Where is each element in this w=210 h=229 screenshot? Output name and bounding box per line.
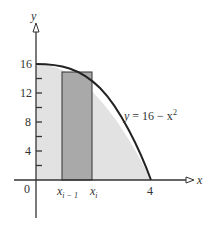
y-tick-label-16: 16 (20, 57, 32, 71)
y-axis-arrow-icon (33, 23, 39, 32)
x-tick-label-4: 4 (147, 184, 153, 198)
y-tick-label-12: 12 (20, 86, 32, 100)
function-label: y = 16 − x2 (123, 108, 177, 123)
y-axis-label: y (30, 9, 37, 23)
x-i-minus-1-label: xi − 1 (56, 184, 78, 200)
x-i-label: xi (89, 184, 98, 200)
x-axis-arrow-icon (186, 177, 194, 183)
y-tick-label-4: 4 (25, 144, 31, 158)
y-tick-label-8: 8 (25, 115, 31, 129)
chart: y x 16 12 8 4 0 4 xi − 1 xi y = 16 − x2 (0, 0, 210, 229)
origin-label: 0 (24, 182, 30, 196)
riemann-rectangle (62, 72, 92, 180)
x-axis-label: x (196, 173, 203, 187)
